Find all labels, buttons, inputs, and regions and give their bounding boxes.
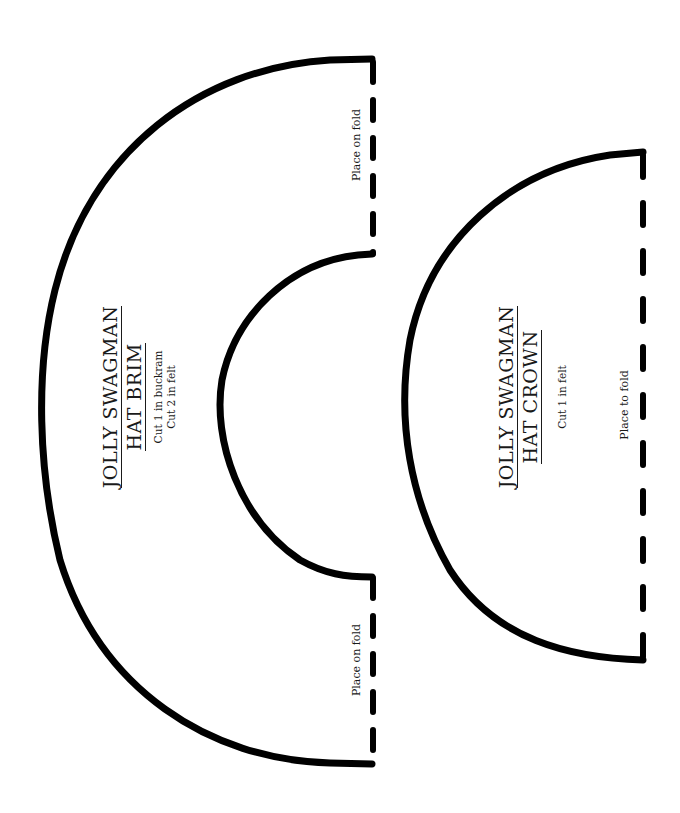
brim-bottom-fold-label: Place on fold bbox=[350, 605, 363, 715]
brim-outer-edge bbox=[42, 59, 372, 764]
brim-instruction-2: Cut 2 in felt bbox=[165, 365, 178, 429]
pattern-sheet: JOLLY SWAGMAN HAT BRIM Cut 1 in buckram … bbox=[0, 0, 680, 813]
brim-title-line2: HAT BRIM bbox=[124, 343, 146, 450]
brim-top-fold-label: Place on fold bbox=[350, 90, 363, 200]
crown-title-line1: JOLLY SWAGMAN bbox=[496, 306, 518, 489]
crown-instruction-1: Cut 1 in felt bbox=[556, 365, 569, 429]
crown-title-line2: HAT CROWN bbox=[520, 330, 542, 463]
crown-fold-label: Place to fold bbox=[618, 355, 631, 455]
brim-instruction-1: Cut 1 in buckram bbox=[152, 351, 165, 444]
brim-title-line1: JOLLY SWAGMAN bbox=[100, 306, 122, 489]
brim-label: JOLLY SWAGMAN HAT BRIM Cut 1 in buckram … bbox=[100, 282, 178, 512]
crown-label: JOLLY SWAGMAN HAT CROWN Cut 1 in felt bbox=[496, 282, 569, 512]
brim-inner-edge bbox=[220, 254, 372, 577]
